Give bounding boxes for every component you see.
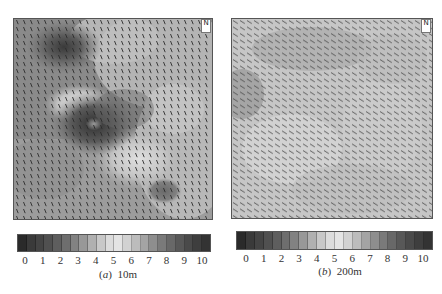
colorbar-segment (237, 232, 246, 249)
colorbar-segment (282, 232, 291, 249)
colorbar-segment (44, 235, 53, 251)
colorbar-tick-label: 6 (349, 252, 355, 264)
colorbar-tick-label: 4 (93, 254, 99, 266)
colorbar-200m (236, 231, 433, 250)
colorbar-tick-label: 8 (164, 254, 170, 266)
colorbar-segment (362, 232, 371, 249)
colorbar-tick-label: 3 (296, 252, 302, 264)
colorbar-segment (193, 235, 202, 251)
colorbar-tick-label: 9 (182, 254, 188, 266)
colorbar-segment (299, 232, 308, 249)
north-marker: N (201, 19, 211, 33)
colorbar-segment (202, 235, 210, 251)
colorbar-segment (149, 235, 158, 251)
caption-10m: (a) 10m (99, 268, 137, 280)
colorbar-segment (380, 232, 389, 249)
colorbar-segment (97, 235, 106, 251)
caption-200m: (b) 200m (318, 265, 361, 277)
colorbar-segment (255, 232, 264, 249)
colorbar-segment (326, 232, 335, 249)
colorbar-tick-label: 3 (75, 254, 81, 266)
colorbar-segment (27, 235, 36, 251)
colorbar-segment (264, 232, 273, 249)
caption-height: 10m (117, 268, 137, 280)
colorbar-tick-label: 6 (128, 254, 134, 266)
colorbar-segment (114, 235, 123, 251)
colorbar-segment (176, 235, 185, 251)
colorbar-tick-label: 1 (40, 254, 46, 266)
colorbar-segment (397, 232, 406, 249)
colorbar-segment (106, 235, 115, 251)
colorbar-segment (335, 232, 344, 249)
colorbar-segment (18, 235, 27, 251)
colorbar-tick-label: 8 (385, 252, 391, 264)
colorbar-segment (158, 235, 167, 251)
colorbar-tick-label: 7 (367, 252, 373, 264)
colorbar-segment (290, 232, 299, 249)
colorbar-tick-label: 9 (403, 252, 409, 264)
colorbar-segment (79, 235, 88, 251)
colorbar-tick-label: 10 (418, 252, 429, 264)
colorbar-tick-label: 5 (111, 254, 117, 266)
colorbar-segment (141, 235, 150, 251)
colorbar-tick-label: 5 (332, 252, 338, 264)
colorbar-segment (415, 232, 424, 249)
colorbar-segment (36, 235, 45, 251)
colorbar-segment (88, 235, 97, 251)
colorbar-segment (71, 235, 80, 251)
caption-height: 200m (337, 265, 362, 277)
colorbar-segment (371, 232, 380, 249)
colorbar-segment (62, 235, 71, 251)
colorbar-tick-label: 0 (22, 254, 28, 266)
colorbar-10m (17, 234, 211, 252)
wind-field-map-200m: N (231, 18, 433, 219)
colorbar-segment (167, 235, 176, 251)
colorbar-segment (344, 232, 353, 249)
colorbar-segment (185, 235, 194, 251)
colorbar-segment (424, 232, 432, 249)
wind-field-200m-plot (232, 19, 432, 218)
colorbar-segment (53, 235, 62, 251)
colorbar-segment (353, 232, 362, 249)
colorbar-segment (406, 232, 415, 249)
wind-field-10m-plot (14, 19, 212, 219)
colorbar-tick-label: 1 (261, 252, 267, 264)
colorbar-tick-label: 2 (58, 254, 64, 266)
colorbar-segment (123, 235, 132, 251)
wind-field-map-10m: N (13, 18, 213, 220)
colorbar-segment (132, 235, 141, 251)
colorbar-segment (388, 232, 397, 249)
colorbar-ticks-200m: 012345678910 (246, 252, 423, 266)
colorbar-segment (246, 232, 255, 249)
colorbar-tick-label: 10 (197, 254, 208, 266)
colorbar-tick-label: 4 (314, 252, 320, 264)
colorbar-segment (273, 232, 282, 249)
colorbar-tick-label: 0 (243, 252, 249, 264)
colorbar-ticks-10m: 012345678910 (25, 254, 202, 268)
colorbar-tick-label: 7 (146, 254, 152, 266)
colorbar-segment (308, 232, 317, 249)
colorbar-tick-label: 2 (279, 252, 285, 264)
north-marker: N (421, 19, 431, 33)
colorbar-segment (317, 232, 326, 249)
